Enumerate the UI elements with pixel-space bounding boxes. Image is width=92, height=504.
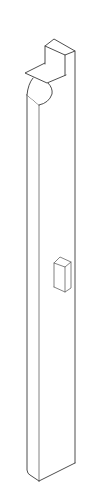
side-lug [54, 257, 71, 292]
drawing-canvas [0, 0, 92, 504]
post-line-drawing [0, 0, 92, 504]
